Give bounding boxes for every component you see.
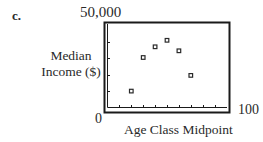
data-point-marker [177,49,181,53]
data-point-marker [189,74,193,78]
data-point-marker [165,39,169,43]
plot-frame [105,23,230,113]
data-points [130,39,193,93]
data-point-marker [141,56,145,60]
scatter-plot [0,0,263,142]
data-point-marker [153,45,157,49]
data-point-marker [130,89,134,93]
